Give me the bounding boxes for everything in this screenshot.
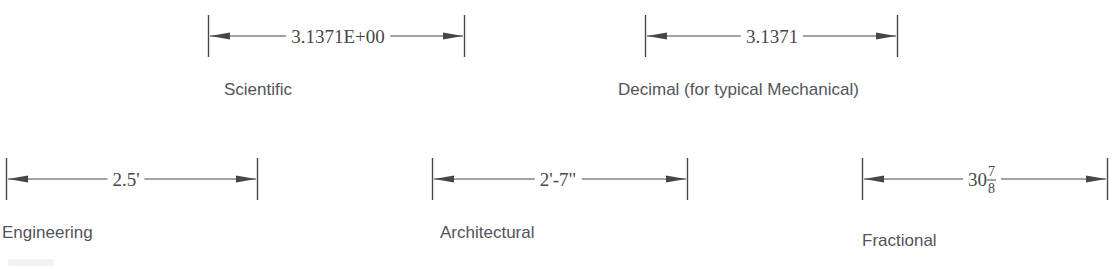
dimension-label-engineering: Engineering bbox=[2, 224, 93, 241]
dimension-architectural: 2'-7" bbox=[432, 158, 690, 200]
dimension-label-architectural: Architectural bbox=[440, 224, 534, 241]
dimension-value-scientific: 3.1371E+00 bbox=[286, 27, 390, 46]
dimension-label-fractional: Fractional bbox=[862, 232, 937, 249]
dimension-scientific: 3.1371E+00 bbox=[208, 15, 468, 57]
dimension-value-fractional: 30 7 8 bbox=[963, 164, 1001, 195]
dimension-label-scientific: Scientific bbox=[224, 81, 292, 98]
fraction-denominator: 8 bbox=[987, 180, 996, 196]
dimension-format-figure: 3.1371E+00 Scientific 3.1371 Decimal (fo… bbox=[0, 0, 1115, 269]
dimension-value-architectural: 2'-7" bbox=[535, 170, 582, 189]
dimension-value-engineering: 2.5' bbox=[107, 170, 144, 189]
dimension-fractional: 30 7 8 bbox=[862, 158, 1109, 200]
dimension-label-decimal: Decimal (for typical Mechanical) bbox=[618, 81, 859, 98]
dimension-engineering: 2.5' bbox=[6, 158, 260, 200]
fraction-whole: 30 bbox=[968, 170, 987, 189]
dimension-value-decimal: 3.1371 bbox=[741, 27, 803, 46]
mixed-number: 30 7 8 bbox=[968, 164, 996, 195]
dimension-decimal: 3.1371 bbox=[645, 15, 900, 57]
fraction-numerator: 7 bbox=[987, 165, 996, 180]
stacked-fraction: 7 8 bbox=[987, 165, 996, 196]
scan-artifact bbox=[8, 259, 54, 266]
